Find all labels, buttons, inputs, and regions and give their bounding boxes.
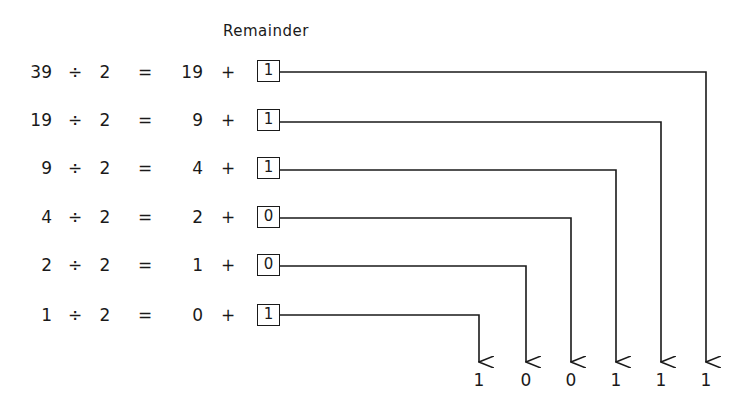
connector-arrow (280, 315, 479, 362)
result-bit: 0 (561, 370, 581, 390)
connector-arrow (280, 218, 571, 362)
remainder-connectors (0, 0, 743, 406)
result-bit: 0 (516, 370, 536, 390)
connector-arrow (280, 72, 706, 362)
result-bit: 1 (651, 370, 671, 390)
result-bit: 1 (469, 370, 489, 390)
result-bit: 1 (696, 370, 716, 390)
connector-arrow (280, 266, 526, 362)
result-bit: 1 (606, 370, 626, 390)
connector-arrow (280, 122, 661, 362)
